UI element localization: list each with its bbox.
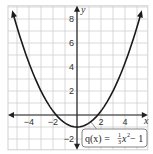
equation-prefix: q(x) = <box>85 133 110 145</box>
y-tick-label: 8 <box>69 14 74 24</box>
equation-fraction-numerator: 1 <box>118 132 121 138</box>
x-tick-label: 4 <box>122 117 127 127</box>
x-tick-label: 2 <box>98 117 103 127</box>
y-axis-label: y <box>80 4 86 15</box>
y-tick-label: 4 <box>69 62 74 72</box>
grid <box>8 6 148 150</box>
x-tick-label: −4 <box>24 117 34 127</box>
parabola-chart: −4−2248642−2 x y q(x) = 1 3 x 2 − 1 <box>0 0 153 154</box>
x-axis-label: x <box>143 115 149 126</box>
y-tick-label: 6 <box>69 38 74 48</box>
x-tick-label: −2 <box>48 117 58 127</box>
equation-suffix: − 1 <box>130 133 143 144</box>
y-tick-label: −2 <box>64 134 74 144</box>
y-tick-label: 2 <box>69 86 74 96</box>
equation-fraction-denominator: 3 <box>118 139 121 145</box>
